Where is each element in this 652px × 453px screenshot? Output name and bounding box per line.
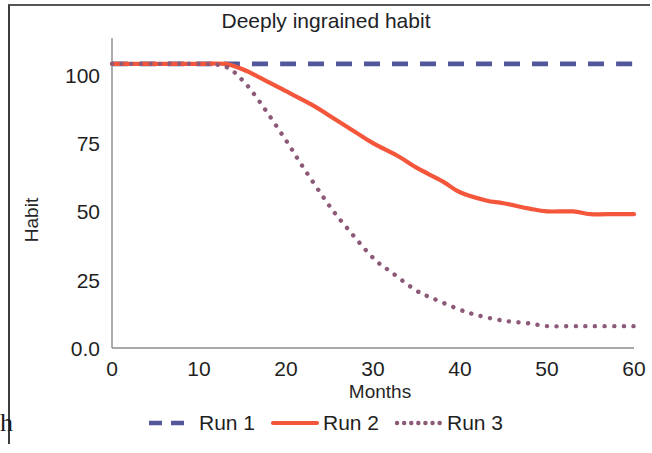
- x-tick-label: 60: [622, 357, 645, 380]
- x-axis-title: Months: [349, 381, 411, 402]
- y-tick-label: 75: [77, 132, 100, 155]
- legend-label-2[interactable]: Run 2: [323, 411, 379, 434]
- x-tick-label: 20: [274, 357, 297, 380]
- y-tick-label: 100: [65, 64, 100, 87]
- x-tick-label: 0: [106, 357, 118, 380]
- x-tick-labels: 0102030405060: [106, 357, 646, 380]
- corner-glyph-artifact: h: [0, 410, 13, 436]
- y-tick-labels: 0.0255075100: [65, 64, 100, 360]
- chart-title: Deeply ingrained habit: [222, 9, 431, 32]
- chart-figure: Deeply ingrained habit Habit Months 0.02…: [0, 0, 652, 453]
- x-tick-label: 50: [535, 357, 558, 380]
- y-tick-label: 25: [77, 269, 100, 292]
- y-axis-title: Habit: [21, 197, 42, 242]
- series-line-2: [112, 63, 634, 214]
- chart-legend: Run 1Run 2Run 3: [149, 411, 503, 434]
- x-tick-label: 10: [187, 357, 210, 380]
- x-tick-label: 30: [361, 357, 384, 380]
- legend-label-1[interactable]: Run 1: [199, 411, 255, 434]
- y-tick-label: 50: [77, 200, 100, 223]
- data-series-group: [112, 63, 634, 326]
- x-tick-label: 40: [448, 357, 471, 380]
- series-line-3: [112, 64, 634, 327]
- y-tick-label: 0.0: [71, 337, 100, 360]
- line-chart: Deeply ingrained habit Habit Months 0.02…: [0, 0, 652, 453]
- legend-label-3[interactable]: Run 3: [447, 411, 503, 434]
